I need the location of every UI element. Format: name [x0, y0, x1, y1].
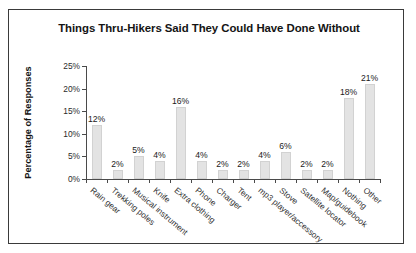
y-tick: [82, 89, 86, 90]
bar: [218, 170, 228, 179]
y-axis-line: [86, 66, 87, 180]
y-tick-label: 15%: [50, 106, 80, 116]
bar-value-label: 4%: [195, 150, 207, 160]
x-tick: [149, 179, 150, 183]
y-tick-label: 10%: [50, 129, 80, 139]
bar: [365, 84, 375, 179]
bar: [197, 161, 207, 179]
x-tick: [86, 179, 87, 183]
x-tick: [275, 179, 276, 183]
x-tick: [170, 179, 171, 183]
y-tick-label: 5%: [50, 151, 80, 161]
chart-title: Things Thru-Hikers Said They Could Have …: [29, 22, 389, 34]
x-tick: [191, 179, 192, 183]
bar: [344, 98, 354, 179]
y-axis-title: Percentage of Responses: [21, 66, 35, 179]
bar: [239, 170, 249, 179]
x-tick: [107, 179, 108, 183]
chart-frame: Things Thru-Hikers Said They Could Have …: [8, 9, 404, 244]
bar: [176, 107, 186, 179]
x-tick: [338, 179, 339, 183]
x-tick: [380, 179, 381, 183]
bar-value-label: 5%: [132, 145, 144, 155]
bar-value-label: 2%: [300, 159, 312, 169]
bar: [302, 170, 312, 179]
x-tick: [254, 179, 255, 183]
bar: [134, 156, 144, 179]
y-tick-label: 0%: [50, 174, 80, 184]
bar: [260, 161, 270, 179]
bar-value-label: 6%: [279, 141, 291, 151]
bar: [155, 161, 165, 179]
chart-figure: Things Thru-Hikers Said They Could Have …: [0, 0, 416, 253]
bar-value-label: 12%: [88, 114, 105, 124]
bar-value-label: 2%: [321, 159, 333, 169]
y-tick: [82, 111, 86, 112]
bar-value-label: 16%: [172, 96, 189, 106]
x-tick: [359, 179, 360, 183]
bar-value-label: 4%: [258, 150, 270, 160]
bar: [281, 152, 291, 179]
bar-value-label: 2%: [111, 159, 123, 169]
bar: [113, 170, 123, 179]
y-tick-label: 25%: [50, 61, 80, 71]
x-tick: [128, 179, 129, 183]
y-tick: [82, 134, 86, 135]
x-tick: [233, 179, 234, 183]
x-tick: [212, 179, 213, 183]
bar: [92, 125, 102, 179]
bar-value-label: 21%: [361, 73, 378, 83]
bar: [323, 170, 333, 179]
plot-area: 0%5%10%15%20%25% 12%2%5%4%16%4%2%2%4%6%2…: [86, 66, 380, 179]
y-tick-label: 20%: [50, 84, 80, 94]
bar-value-label: 18%: [340, 87, 357, 97]
x-tick: [317, 179, 318, 183]
y-tick: [82, 156, 86, 157]
x-tick: [296, 179, 297, 183]
bar-value-label: 4%: [153, 150, 165, 160]
bar-value-label: 2%: [237, 159, 249, 169]
bar-value-label: 2%: [216, 159, 228, 169]
y-tick: [82, 66, 86, 67]
